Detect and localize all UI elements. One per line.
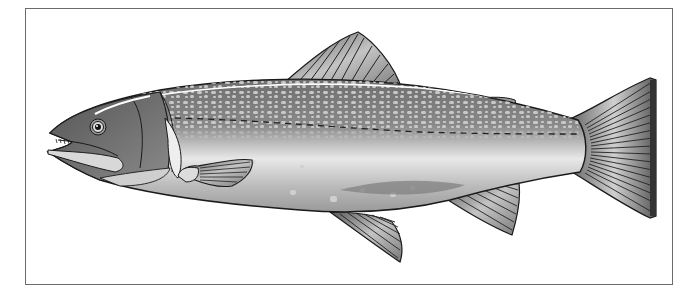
pelvic-fin: [330, 212, 402, 262]
head: [48, 92, 181, 186]
trout-illustration: [0, 0, 692, 294]
eye: [90, 119, 106, 135]
